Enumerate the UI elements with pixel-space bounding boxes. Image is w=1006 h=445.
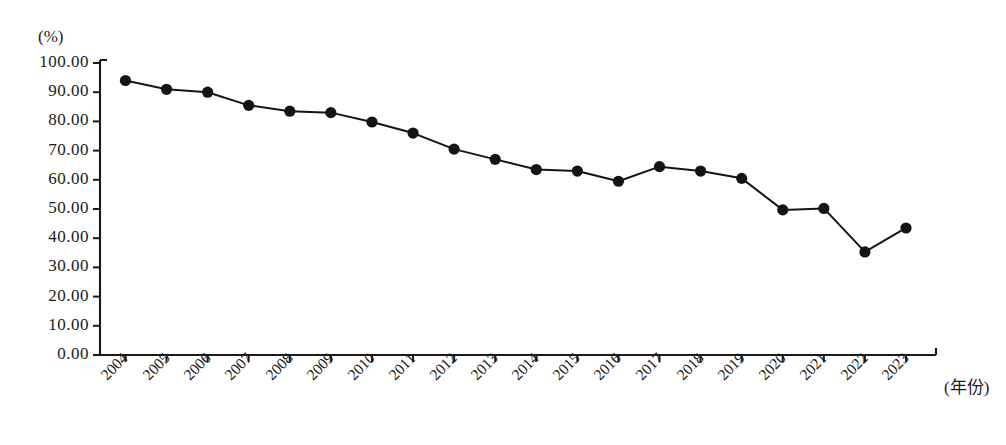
data-point-marker [120, 75, 131, 86]
data-point-marker [243, 100, 254, 111]
y-axis-tick-label: 100.00 [39, 52, 89, 72]
y-axis-tick-label: 70.00 [48, 140, 89, 160]
y-axis-tick-label: 30.00 [48, 256, 89, 276]
data-point-marker [325, 107, 336, 118]
data-point-marker [777, 204, 788, 215]
data-point-marker [284, 106, 295, 117]
data-point-marker [736, 173, 747, 184]
y-axis-tick-label: 60.00 [48, 169, 89, 189]
data-point-marker [695, 165, 706, 176]
data-point-marker [531, 164, 542, 175]
y-axis-tick-label: 0.00 [57, 344, 89, 364]
data-point-marker [407, 127, 418, 138]
data-point-marker [366, 116, 377, 127]
x-axis-title: (年份) [944, 373, 989, 398]
y-axis-tick-label: 90.00 [48, 81, 89, 101]
data-point-marker [900, 222, 911, 233]
data-point-marker [613, 176, 624, 187]
data-point-marker [449, 144, 460, 155]
data-point-marker [859, 246, 870, 257]
data-point-marker [202, 87, 213, 98]
axis-lines [100, 60, 936, 355]
y-axis-tick-label: 10.00 [48, 315, 89, 335]
y-axis-tick-label: 50.00 [48, 198, 89, 218]
y-axis-tick-label: 80.00 [48, 110, 89, 130]
data-series-line [125, 81, 906, 252]
data-point-marker [161, 84, 172, 95]
y-axis-tick-label: 20.00 [48, 286, 89, 306]
data-point-marker [572, 165, 583, 176]
data-point-marker [818, 203, 829, 214]
data-point-marker [490, 154, 501, 165]
data-point-marker [654, 161, 665, 172]
y-axis-tick-label: 40.00 [48, 227, 89, 247]
line-chart: (%) 100.0090.0080.0070.0060.0050.0040.00… [0, 0, 1006, 445]
